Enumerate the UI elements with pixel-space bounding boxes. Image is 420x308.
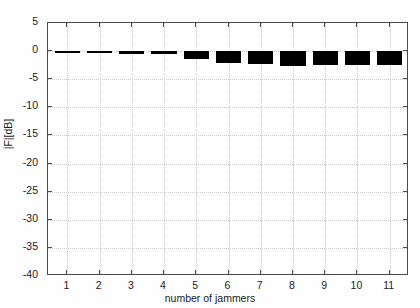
x-tick-mark: [356, 270, 357, 275]
y-tick-mark: [47, 247, 52, 248]
gridline-horizontal: [48, 107, 407, 108]
y-tick-mark: [403, 219, 408, 220]
y-tick-label: -15: [23, 128, 38, 139]
bar: [119, 51, 144, 54]
bar: [313, 51, 338, 64]
x-tick-mark: [99, 270, 100, 275]
y-tick-label: -40: [23, 269, 38, 280]
y-tick-mark: [403, 247, 408, 248]
y-tick-mark: [403, 134, 408, 135]
y-tick-label: -25: [23, 185, 38, 196]
plot-area: [47, 22, 408, 275]
x-tick-label: 11: [369, 279, 409, 291]
y-tick-mark: [47, 191, 52, 192]
x-tick-mark: [260, 22, 261, 27]
gridline-horizontal: [48, 135, 407, 136]
x-tick-mark: [389, 270, 390, 275]
x-tick-mark: [163, 22, 164, 27]
x-tick-mark: [324, 270, 325, 275]
gridline-vertical: [196, 23, 197, 274]
x-tick-mark: [131, 270, 132, 275]
y-tick-label: -20: [23, 157, 38, 168]
y-tick-label: -30: [23, 213, 38, 224]
x-tick-mark: [131, 22, 132, 27]
bar: [216, 51, 241, 63]
bar: [280, 51, 305, 66]
bar: [151, 51, 176, 54]
x-tick-mark: [195, 270, 196, 275]
y-tick-mark: [47, 78, 52, 79]
bar: [87, 51, 112, 53]
gridline-horizontal: [48, 164, 407, 165]
y-tick-mark: [47, 134, 52, 135]
x-tick-mark: [66, 270, 67, 275]
gridline-horizontal: [48, 220, 407, 221]
y-tick-label: -35: [23, 241, 38, 252]
x-tick-mark: [324, 22, 325, 27]
bar: [248, 51, 273, 64]
y-tick-mark: [403, 78, 408, 79]
x-tick-mark: [292, 270, 293, 275]
y-tick-label: -5: [29, 72, 38, 83]
y-tick-mark: [403, 163, 408, 164]
x-tick-mark: [228, 22, 229, 27]
y-tick-mark: [403, 106, 408, 107]
y-tick-label: 0: [32, 44, 38, 55]
x-tick-mark: [260, 270, 261, 275]
x-tick-mark: [66, 22, 67, 27]
y-axis-title: |F|[dB]: [2, 104, 14, 164]
gridline-horizontal: [48, 248, 407, 249]
x-tick-mark: [163, 270, 164, 275]
y-tick-mark: [47, 106, 52, 107]
bar: [345, 51, 370, 64]
x-tick-mark: [292, 22, 293, 27]
gridline-horizontal: [48, 79, 407, 80]
x-tick-mark: [195, 22, 196, 27]
gridline-horizontal: [48, 192, 407, 193]
gridline-vertical: [164, 23, 165, 274]
gridline-vertical: [100, 23, 101, 274]
bar: [377, 51, 402, 64]
y-tick-mark: [403, 50, 408, 51]
x-axis-title: number of jammers: [0, 292, 420, 304]
y-tick-mark: [403, 191, 408, 192]
bar: [55, 51, 80, 53]
figure-canvas: 50-5-10-15-20-25-30-35-40 1234567891011 …: [0, 0, 420, 308]
x-tick-mark: [389, 22, 390, 27]
y-tick-mark: [47, 219, 52, 220]
gridline-vertical: [67, 23, 68, 274]
x-tick-mark: [228, 270, 229, 275]
x-tick-mark: [356, 22, 357, 27]
gridline-vertical: [132, 23, 133, 274]
y-tick-mark: [47, 163, 52, 164]
y-tick-label: -10: [23, 100, 38, 111]
y-tick-mark: [47, 50, 52, 51]
bar: [184, 51, 209, 59]
y-tick-label: 5: [32, 16, 38, 27]
x-tick-mark: [99, 22, 100, 27]
